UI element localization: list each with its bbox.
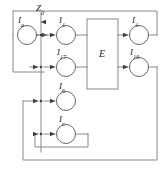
node-circle-i4 <box>130 26 149 45</box>
junction-dot-row4 <box>40 133 43 136</box>
label-i1: I1 <box>59 16 65 25</box>
junction-dot-row1 <box>40 34 43 37</box>
node-circle-i17 <box>57 58 76 77</box>
label-i19: I19 <box>130 48 139 57</box>
node-circle-i19 <box>130 58 149 77</box>
junction-dot-row2 <box>40 66 43 69</box>
label-i4: I4 <box>132 16 138 25</box>
node-circle-i6 <box>57 92 76 111</box>
label-z0: Z0 <box>36 4 44 13</box>
node-circle-ic <box>57 125 76 144</box>
outer-bottom-rail <box>23 67 157 160</box>
label-ia: Ia <box>18 16 24 25</box>
junction-dot-row3 <box>40 100 43 103</box>
node-circle-ia <box>18 26 37 45</box>
label-i17: I17 <box>57 48 66 57</box>
node-circles <box>18 26 149 144</box>
block-diagram-canvas: Z0 Ia I1 I17 I6 Ic I4 I19 E <box>0 0 165 173</box>
node-circle-i1 <box>57 26 76 45</box>
label-i6: I6 <box>59 82 65 91</box>
diagram-vector-layer <box>0 0 165 173</box>
label-e-block: E <box>99 49 105 59</box>
label-ic: Ic <box>59 115 65 124</box>
